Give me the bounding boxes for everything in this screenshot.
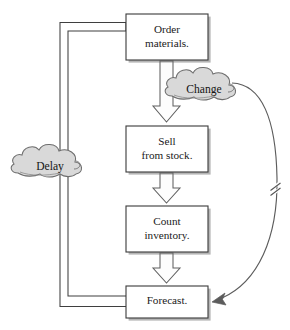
sell-from-stock-box: [126, 126, 208, 172]
block-arrow-count-forecast: [153, 253, 180, 283]
change-curve-arrowhead: [212, 293, 226, 305]
forecast-box: [126, 286, 208, 318]
node-order-materials[interactable]: [126, 14, 211, 63]
order-materials-box: [126, 14, 208, 60]
cloud-change: [165, 67, 235, 100]
flowchart-diagram: Order materials. Sell from stock. Count …: [0, 0, 290, 330]
cloud-delay-shape: [11, 144, 81, 177]
connector-sell-to-count: [153, 173, 180, 203]
node-forecast[interactable]: [126, 286, 211, 321]
connector-count-to-forecast: [153, 253, 180, 283]
diagram-canvas: [0, 0, 290, 330]
break-mark-icon: [270, 182, 281, 196]
count-inventory-box: [126, 206, 208, 252]
change-curve-line: [222, 83, 277, 298]
connector-change-to-forecast-curve: [212, 83, 281, 305]
cloud-change-shape: [165, 67, 235, 100]
block-arrow-sell-count: [153, 173, 180, 203]
node-sell-from-stock[interactable]: [126, 126, 211, 175]
cloud-delay: [11, 144, 81, 177]
node-count-inventory[interactable]: [126, 206, 211, 255]
